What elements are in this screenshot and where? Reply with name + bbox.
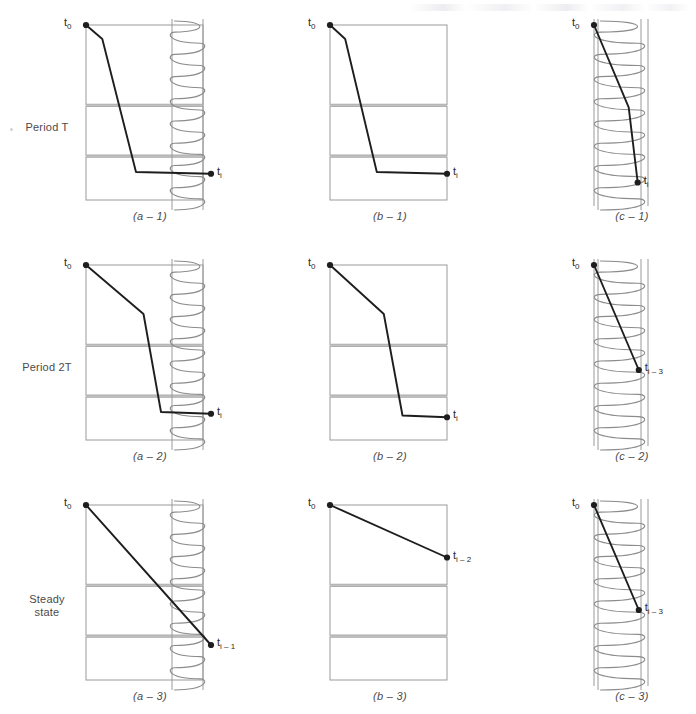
insulation-coil [170, 261, 204, 450]
start-temperature-label-a-2: t0 [64, 256, 72, 271]
temperature-profile-line [594, 505, 639, 610]
start-temperature-marker [83, 262, 89, 268]
wall-layer-3 [330, 637, 447, 680]
end-temperature-label-b-3: ti – 2 [453, 549, 471, 564]
figure-canvas [0, 0, 696, 714]
end-temperature-label-a-3: ti – 1 [217, 636, 235, 651]
wall-layer-2 [330, 106, 447, 155]
panel-group [83, 19, 648, 690]
end-temperature-marker [208, 642, 214, 648]
temperature-profile-line [86, 265, 211, 414]
end-temperature-label-b-1: ti [453, 165, 458, 180]
insulation-coil [594, 261, 644, 450]
start-temperature-label-b-2: t0 [308, 256, 316, 271]
panel-b-3 [327, 502, 450, 680]
panel-c-1 [591, 19, 648, 210]
layer-seam-1 [86, 584, 203, 587]
end-temperature-marker [444, 414, 450, 420]
start-temperature-marker [83, 502, 89, 508]
row-label-steady-state: Steadystate [0, 593, 102, 619]
layer-seam-2 [86, 634, 203, 637]
start-temperature-label-c-3: t0 [572, 496, 580, 511]
temperature-profile-line [594, 25, 638, 183]
caption-b-3: (b – 3) [330, 690, 450, 702]
wall-layer-1 [330, 265, 447, 345]
end-temperature-label-a-1: ti [217, 165, 222, 180]
caption-c-3: (c – 3) [572, 690, 692, 702]
start-temperature-marker [591, 22, 597, 28]
wall-layer-3 [330, 157, 447, 200]
row-label-period-2t: Period 2T [0, 361, 102, 374]
insulation-coil [594, 501, 644, 690]
caption-b-1: (b – 1) [330, 210, 450, 222]
layer-seam-2 [86, 154, 203, 157]
end-temperature-marker [636, 607, 642, 613]
end-temperature-label-b-2: ti [453, 408, 458, 423]
wall-layer-1 [330, 25, 447, 105]
start-temperature-marker [591, 262, 597, 268]
panel-c-3 [591, 499, 648, 690]
wall-layer-3 [86, 397, 203, 440]
wall-layer-3 [86, 637, 203, 680]
layer-seam-1 [86, 344, 203, 347]
start-temperature-label-c-1: t0 [572, 16, 580, 31]
caption-c-1: (c – 1) [572, 210, 692, 222]
panel-a-1 [83, 19, 214, 210]
layer-seam-2 [330, 154, 447, 157]
caption-b-2: (b – 2) [330, 450, 450, 462]
start-temperature-marker [327, 262, 333, 268]
panel-a-3 [83, 499, 214, 690]
start-temperature-marker [327, 22, 333, 28]
temperature-profile-line [86, 25, 211, 174]
panel-a-2 [83, 259, 214, 450]
start-temperature-label-c-2: t0 [572, 256, 580, 271]
end-temperature-marker [636, 367, 642, 373]
start-temperature-marker [327, 502, 333, 508]
start-temperature-label-b-1: t0 [308, 16, 316, 31]
panel-c-2 [591, 259, 648, 450]
end-temperature-label-c-3: ti – 3 [645, 601, 663, 616]
layer-seam-2 [86, 394, 203, 397]
start-temperature-marker [591, 502, 597, 508]
end-temperature-label-c-2: ti – 3 [645, 361, 663, 376]
layer-seam-1 [86, 104, 203, 107]
wall-layer-2 [330, 346, 447, 395]
caption-a-1: (a – 1) [90, 210, 210, 222]
layer-seam-1 [330, 104, 447, 107]
caption-a-2: (a – 2) [90, 450, 210, 462]
end-temperature-marker [635, 179, 641, 185]
start-temperature-label-a-3: t0 [64, 496, 72, 511]
wall-layer-2 [330, 586, 447, 635]
wall-layer-3 [330, 397, 447, 440]
layer-seam-2 [330, 634, 447, 637]
insulation-coil [170, 21, 204, 210]
start-temperature-marker [83, 22, 89, 28]
temperature-profile-line [330, 505, 447, 558]
temperature-profile-line [594, 265, 639, 370]
wall-layer-3 [86, 157, 203, 200]
end-temperature-marker [444, 171, 450, 177]
end-temperature-label-c-1: ti [644, 174, 649, 189]
end-temperature-marker [444, 554, 450, 560]
row-label-period-t: Period T [0, 121, 102, 134]
panel-b-2 [327, 262, 450, 440]
end-temperature-label-a-2: ti [217, 405, 222, 420]
end-temperature-marker [208, 171, 214, 177]
caption-c-2: (c – 2) [572, 450, 692, 462]
layer-seam-2 [330, 394, 447, 397]
wall-layer-1 [330, 505, 447, 585]
caption-a-3: (a – 3) [90, 690, 210, 702]
temperature-profile-line [330, 25, 447, 174]
insulation-coil [170, 501, 204, 690]
layer-seam-1 [330, 584, 447, 587]
start-temperature-label-a-1: t0 [64, 16, 72, 31]
start-temperature-label-b-3: t0 [308, 496, 316, 511]
end-temperature-marker [208, 411, 214, 417]
panel-b-1 [327, 22, 450, 200]
temperature-profile-line [86, 505, 211, 645]
